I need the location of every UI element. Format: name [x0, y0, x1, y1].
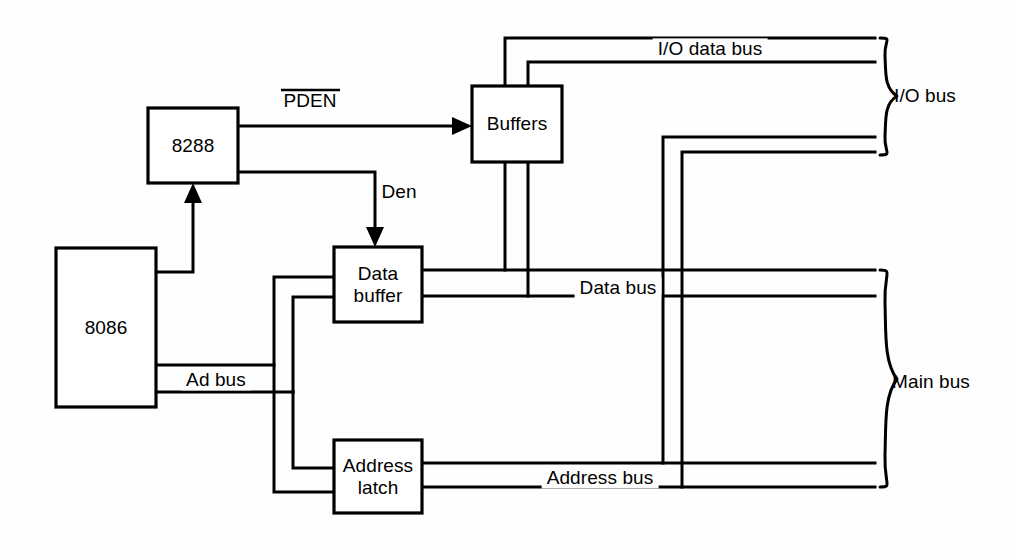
arrowhead-den	[366, 227, 384, 247]
block-diagram-canvas: 8086 8288 Buffers Data buffer Address la…	[0, 0, 1015, 558]
block-label-8086: 8086	[85, 317, 128, 338]
block-label-address-latch-line2: latch	[358, 477, 399, 498]
arrowhead-cpu-to-8288	[184, 183, 202, 203]
wire-io-data-bus-lower	[528, 62, 875, 86]
wire-io-bus-addr-lower	[682, 152, 875, 487]
block-label-data-buffer-line2: buffer	[354, 285, 403, 306]
signal-label-den: Den	[381, 181, 416, 202]
block-label-8288: 8288	[172, 135, 215, 156]
block-label-buffers: Buffers	[487, 113, 548, 134]
block-label-data-buffer-line1: Data	[358, 263, 399, 284]
block-label-address-latch-line1: Address	[343, 455, 413, 476]
wire-ad-bus-to-address-latch-upper	[293, 392, 334, 468]
signal-label-pden: PDEN	[283, 90, 336, 111]
wire-io-bus-addr-upper	[663, 137, 875, 463]
bus-label-data-bus: Data bus	[575, 277, 662, 298]
diagram-vector-layer	[0, 0, 1015, 558]
arrowhead-pden	[452, 117, 472, 135]
group-label-io-bus: I/O bus	[894, 85, 956, 106]
wire-ad-bus-upper	[156, 277, 334, 365]
wire-ad-bus-to-address-latch-lower	[274, 365, 334, 492]
group-label-main-bus: Main bus	[892, 371, 970, 392]
wire-cpu-to-8288	[156, 193, 193, 272]
bus-label-io-data-bus: I/O data bus	[653, 38, 768, 59]
bus-label-address-bus: Address bus	[542, 467, 659, 488]
wire-den	[238, 172, 375, 237]
bus-label-ad-bus: Ad bus	[181, 369, 251, 390]
wire-ad-bus-to-data-buffer	[293, 297, 334, 392]
